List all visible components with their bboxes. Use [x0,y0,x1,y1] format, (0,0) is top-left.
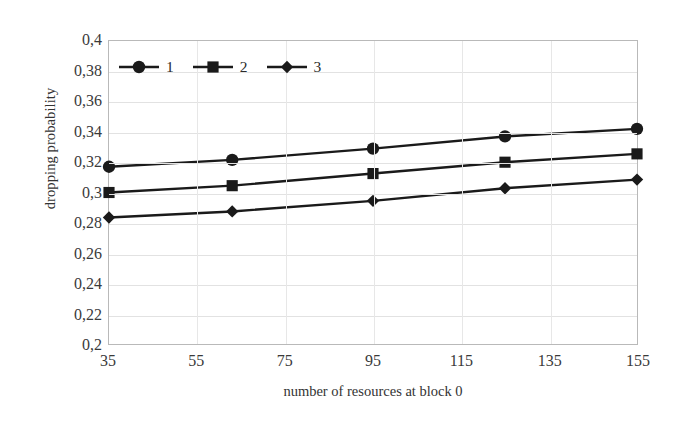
gridline-horizontal [109,316,637,317]
diamond-marker [280,61,292,73]
x-tick-label: 55 [166,352,226,370]
circle-marker [367,142,379,154]
x-tick-label: 95 [343,352,403,370]
y-tick-label: 0,36 [52,93,102,109]
legend-label: 3 [314,58,322,76]
y-tick-label: 0,32 [52,154,102,170]
x-tick-label: 75 [255,352,315,370]
square-marker [103,187,114,198]
diamond-marker [367,195,379,207]
square-marker [227,180,238,191]
gridline-horizontal [109,285,637,286]
y-tick-label: 0,28 [52,215,102,231]
x-axis-tick-labels: 35557595115135155 [0,352,691,376]
y-tick-label: 0,2 [52,337,102,353]
gridline-vertical [551,41,552,344]
chart-legend: 123 [118,58,321,76]
x-tick-label: 115 [431,352,491,370]
circle-marker [226,154,238,166]
plot-area [108,40,638,345]
gridline-vertical [197,41,198,344]
gridline-vertical [462,41,463,344]
x-tick-label: 155 [608,352,668,370]
series-1 [103,123,643,173]
gridline-vertical [374,41,375,344]
square-marker [207,61,218,72]
legend-swatch-circle [118,59,160,75]
x-axis-title: number of resources at block 0 [108,383,638,400]
legend-swatch-square [192,59,234,75]
circle-marker [133,61,145,73]
diamond-marker [631,173,643,185]
y-tick-label: 0,26 [52,246,102,262]
y-tick-label: 0,38 [52,63,102,79]
y-tick-label: 0,3 [52,185,102,201]
legend-entry-1[interactable]: 1 [118,58,174,76]
gridline-horizontal [109,102,637,103]
series-layer [109,41,637,344]
chart-container: dropping probability 0,20,220,240,260,28… [0,0,691,431]
gridline-horizontal [109,133,637,134]
gridline-horizontal [109,163,637,164]
gridline-horizontal [109,224,637,225]
gridline-horizontal [109,194,637,195]
legend-label: 1 [166,58,174,76]
series-2 [103,148,642,198]
gridline-vertical [286,41,287,344]
diamond-marker [226,205,238,217]
square-marker [631,148,642,159]
y-tick-label: 0,4 [52,32,102,48]
x-tick-label: 35 [78,352,138,370]
y-tick-label: 0,22 [52,307,102,323]
series-3 [103,173,643,223]
y-tick-label: 0,34 [52,124,102,140]
gridline-horizontal [109,255,637,256]
diamond-marker [103,211,115,223]
y-tick-label: 0,24 [52,276,102,292]
legend-entry-2[interactable]: 2 [192,58,248,76]
legend-swatch-diamond [266,59,308,75]
square-marker [367,168,378,179]
x-tick-label: 135 [520,352,580,370]
legend-entry-3[interactable]: 3 [266,58,322,76]
legend-label: 2 [240,58,248,76]
